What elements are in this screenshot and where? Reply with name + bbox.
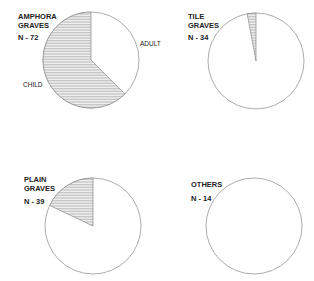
pie-n-label: N - 39 (24, 197, 44, 206)
pie-n-label: N - 72 (18, 33, 38, 42)
pie-n-label: N - 34 (188, 33, 209, 42)
pie-chart-grid: AMPHORA GRAVES N - 72 ADULT CHILD TILE G… (0, 0, 314, 281)
pie-amphora-graves: AMPHORA GRAVES N - 72 ADULT CHILD (18, 12, 161, 108)
pie-tile-graves: TILE GRAVES N - 34 (188, 12, 304, 109)
pie-title-line2: GRAVES (24, 184, 55, 193)
pie-title-line1: AMPHORA (18, 12, 57, 21)
pie-plain-graves: PLAIN GRAVES N - 39 (24, 175, 141, 274)
pie-title-line2: GRAVES (188, 21, 219, 30)
pie-title-line2: GRAVES (18, 21, 49, 30)
slice-label-adult: ADULT (140, 40, 161, 47)
pie-title-line1: TILE (188, 12, 204, 21)
slice-label-child: CHILD (23, 81, 43, 88)
pie-others: OTHERS N - 14 (191, 178, 302, 274)
pie-title-line1: OTHERS (191, 180, 222, 189)
pie-outline (206, 178, 302, 274)
pie-n-label: N - 14 (191, 194, 212, 203)
pie-title-line1: PLAIN (24, 175, 47, 184)
